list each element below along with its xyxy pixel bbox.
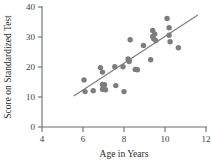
data-point (141, 43, 146, 48)
regression-line (74, 15, 198, 96)
data-point (112, 64, 117, 69)
y-tick-label-30: 30 (26, 32, 36, 42)
data-points-group (81, 16, 181, 95)
x-axis-title: Age in Years (100, 149, 149, 159)
data-point (166, 25, 171, 30)
data-point (126, 59, 131, 64)
data-point (135, 67, 140, 72)
scatter-plot-figure: 40 30 20 10 0 4 6 8 10 12 Age in Years S… (0, 0, 212, 162)
data-point (120, 64, 125, 69)
x-tick-label-6: 6 (81, 134, 86, 144)
y-tick-label-40: 40 (26, 2, 36, 12)
data-point (148, 57, 153, 62)
y-tick-label-20: 20 (26, 62, 36, 72)
data-point (121, 89, 126, 94)
x-tick-label-4: 4 (40, 134, 45, 144)
y-tick-label-10: 10 (26, 92, 36, 102)
x-axis-ticks (42, 127, 206, 132)
data-point (153, 38, 158, 43)
x-tick-label-12: 12 (202, 134, 211, 144)
data-point (152, 31, 157, 36)
data-point (176, 45, 181, 50)
data-point (127, 37, 132, 42)
data-point (91, 88, 96, 93)
data-point (103, 87, 108, 92)
data-point (113, 83, 118, 88)
y-axis-ticks (38, 7, 42, 127)
data-point (166, 33, 171, 38)
y-axis-title: Score on Standardized Test (3, 15, 13, 119)
y-tick-label-0: 0 (31, 122, 36, 132)
plot-canvas: 40 30 20 10 0 4 6 8 10 12 Age in Years S… (0, 0, 212, 162)
data-point (82, 89, 87, 94)
x-tick-label-8: 8 (122, 134, 127, 144)
data-point (164, 16, 169, 21)
data-point (100, 69, 105, 74)
data-point (81, 77, 86, 82)
x-tick-label-10: 10 (161, 134, 171, 144)
data-point (167, 39, 172, 44)
